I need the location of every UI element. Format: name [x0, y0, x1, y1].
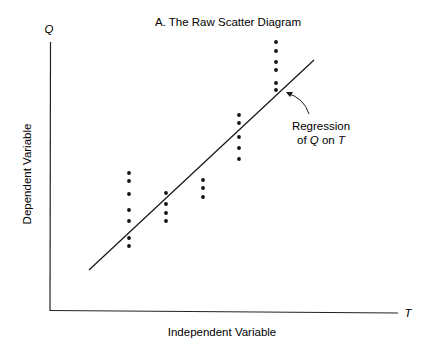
- data-point: [274, 88, 278, 92]
- scatter-chart: A. The Raw Scatter Diagram Q T Independe…: [0, 0, 431, 356]
- data-point: [274, 49, 278, 53]
- data-point: [201, 195, 205, 199]
- data-point: [237, 121, 241, 125]
- data-point: [127, 171, 131, 175]
- data-point: [127, 236, 131, 240]
- x-axis-label: Independent Variable: [168, 326, 277, 338]
- data-point: [237, 146, 241, 150]
- data-point: [237, 135, 241, 139]
- y-axis: [50, 42, 51, 311]
- data-point: [201, 186, 205, 190]
- y-axis-label: Dependent Variable: [21, 124, 33, 225]
- data-point: [127, 208, 131, 212]
- x-axis-symbol: T: [404, 307, 412, 319]
- data-point: [201, 178, 205, 182]
- data-point: [274, 68, 278, 72]
- data-point: [127, 192, 131, 196]
- data-point: [237, 157, 241, 161]
- annotation-line2: of Q on T: [297, 134, 346, 146]
- data-point: [164, 191, 168, 195]
- x-axis: [50, 311, 398, 314]
- data-point: [127, 179, 131, 183]
- data-point: [164, 202, 168, 206]
- data-point: [127, 244, 131, 248]
- data-point: [274, 60, 278, 64]
- data-point: [237, 113, 241, 117]
- data-point: [164, 211, 168, 215]
- data-point: [127, 219, 131, 223]
- annotation-line1: Regression: [292, 120, 350, 132]
- data-points: [127, 40, 278, 248]
- regression-line: [89, 60, 314, 270]
- y-axis-symbol: Q: [45, 23, 54, 35]
- chart-title: A. The Raw Scatter Diagram: [155, 16, 301, 28]
- data-point: [274, 81, 278, 85]
- data-point: [164, 219, 168, 223]
- data-point: [274, 40, 278, 44]
